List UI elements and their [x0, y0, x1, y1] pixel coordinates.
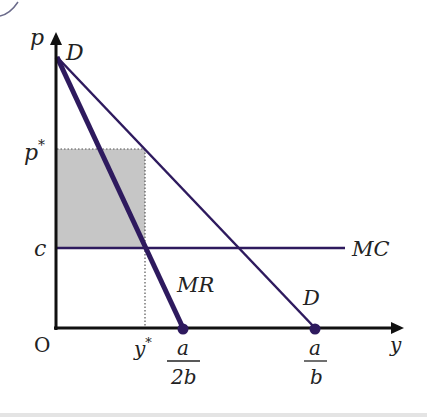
bottom-strip: [0, 413, 427, 417]
profit-region: [57, 149, 145, 248]
d-intercept-dot: [310, 324, 321, 335]
a2b-numerator: a: [177, 336, 189, 360]
p-star-label: p*: [24, 137, 45, 165]
p-axis-label: p: [30, 25, 44, 50]
decorative-arc: [0, 2, 18, 16]
d-top-label: D: [65, 40, 84, 65]
mr-label: MR: [176, 273, 215, 297]
d-bottom-label: D: [302, 286, 320, 310]
origin-label: O: [34, 333, 50, 357]
y-star-label: y*: [133, 335, 152, 361]
ab-numerator: a: [309, 336, 321, 360]
p-axis-arrow-icon: [50, 32, 62, 45]
ab-denominator: b: [310, 365, 323, 389]
mr-intercept-dot: [178, 324, 189, 335]
c-label: c: [34, 236, 46, 261]
monopoly-chart: p D p* c MC MR D O y* a 2b a b y: [0, 0, 427, 417]
a2b-denominator: 2b: [170, 365, 197, 389]
y-axis-label: y: [389, 333, 402, 357]
mc-label: MC: [351, 237, 390, 261]
